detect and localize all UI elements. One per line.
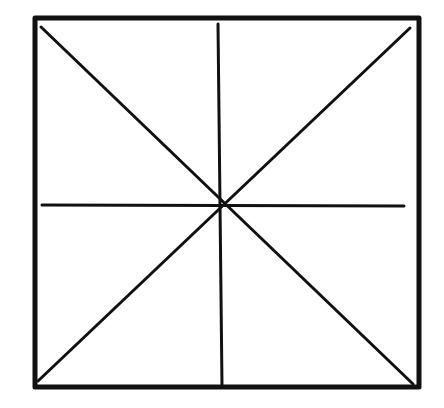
horizontal-midline xyxy=(42,205,404,206)
square-diagram xyxy=(0,0,444,408)
drawing-canvas xyxy=(0,0,444,408)
